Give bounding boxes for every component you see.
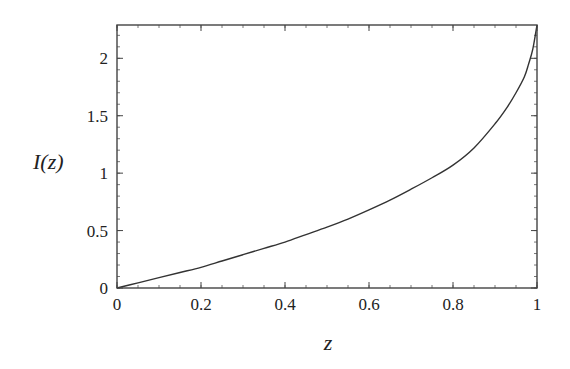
y-tick-label: 2: [100, 49, 109, 68]
plot-frame: [117, 25, 537, 288]
y-tick-label: 0: [100, 279, 109, 298]
x-axis-label: z: [323, 330, 333, 355]
major-ticks: [117, 25, 537, 288]
data-line-I-z: [117, 25, 537, 288]
x-tick-label: 0.8: [442, 295, 463, 314]
x-axis-tick-labels: 00.20.40.60.81: [113, 295, 542, 314]
y-tick-label: 1: [100, 164, 109, 183]
y-axis-label: I(z): [32, 149, 64, 174]
y-tick-label: 1.5: [87, 107, 108, 126]
x-tick-label: 0.2: [190, 295, 211, 314]
x-tick-label: 0: [113, 295, 122, 314]
x-tick-label: 0.6: [358, 295, 379, 314]
x-tick-label: 0.4: [274, 295, 296, 314]
minor-ticks: [117, 25, 537, 288]
chart: 00.20.40.60.81 00.511.52 I(z) z: [0, 0, 570, 369]
y-tick-label: 0.5: [87, 222, 108, 241]
y-axis-tick-labels: 00.511.52: [87, 49, 108, 298]
x-tick-label: 1: [533, 295, 542, 314]
